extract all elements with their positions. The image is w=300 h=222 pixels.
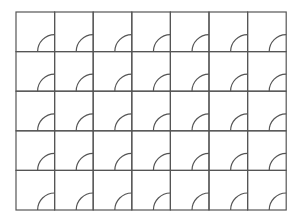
quarter-arc-icon <box>153 193 170 210</box>
quarter-arc-icon <box>192 74 209 91</box>
cell-border <box>170 170 209 210</box>
grid-cell <box>132 91 171 131</box>
door-swing-grid-diagram <box>0 0 300 222</box>
quarter-arc-icon <box>192 35 209 52</box>
grid-cell <box>132 52 171 92</box>
cell-border <box>16 52 55 92</box>
grid-cell <box>55 170 94 210</box>
quarter-arc-icon <box>269 35 286 52</box>
cell-border <box>248 52 287 92</box>
quarter-arc-icon <box>115 74 132 91</box>
grid-cell <box>170 131 209 171</box>
quarter-arc-icon <box>153 114 170 131</box>
cell-border <box>170 131 209 171</box>
quarter-arc-icon <box>38 74 55 91</box>
grid-cell <box>248 52 287 92</box>
quarter-arc-icon <box>269 153 286 170</box>
cell-border <box>132 91 171 131</box>
quarter-arc-icon <box>269 74 286 91</box>
grid-cell <box>93 12 132 52</box>
cell-border <box>93 12 132 52</box>
cell-border <box>248 131 287 171</box>
quarter-arc-icon <box>76 153 93 170</box>
grid-cell <box>16 170 55 210</box>
cell-border <box>209 12 248 52</box>
grid-cell <box>16 12 55 52</box>
cell-border <box>132 12 171 52</box>
grid-cell <box>16 131 55 171</box>
quarter-arc-icon <box>192 153 209 170</box>
grid-cell <box>132 12 171 52</box>
grid-cell <box>209 170 248 210</box>
quarter-arc-icon <box>231 153 248 170</box>
cell-border <box>248 170 287 210</box>
cell-border <box>16 91 55 131</box>
cell-border <box>55 91 94 131</box>
cell-border <box>209 131 248 171</box>
quarter-arc-icon <box>76 35 93 52</box>
cell-border <box>170 91 209 131</box>
cell-border <box>93 131 132 171</box>
cell-border <box>55 12 94 52</box>
grid-cell <box>170 170 209 210</box>
cell-border <box>55 170 94 210</box>
grid-cell <box>55 91 94 131</box>
cell-border <box>93 52 132 92</box>
quarter-arc-icon <box>153 153 170 170</box>
grid-cell <box>170 91 209 131</box>
grid-cell <box>170 52 209 92</box>
grid-cell <box>209 52 248 92</box>
cell-border <box>248 12 287 52</box>
grid-cell <box>248 12 287 52</box>
quarter-arc-icon <box>231 114 248 131</box>
quarter-arc-icon <box>231 35 248 52</box>
grid-cell <box>248 131 287 171</box>
cell-border <box>132 131 171 171</box>
quarter-arc-icon <box>38 153 55 170</box>
cell-border <box>16 12 55 52</box>
grid-cell <box>132 131 171 171</box>
grid-cell <box>55 52 94 92</box>
quarter-arc-icon <box>38 193 55 210</box>
cell-border <box>16 170 55 210</box>
quarter-arc-icon <box>153 74 170 91</box>
grid-cell <box>55 131 94 171</box>
cell-border <box>209 52 248 92</box>
cell-border <box>170 12 209 52</box>
grid-cell <box>55 12 94 52</box>
quarter-arc-icon <box>231 74 248 91</box>
quarter-arc-icon <box>269 193 286 210</box>
grid-cell <box>209 131 248 171</box>
quarter-arc-icon <box>231 193 248 210</box>
cell-border <box>93 91 132 131</box>
quarter-arc-icon <box>76 74 93 91</box>
cell-border <box>55 131 94 171</box>
grid-cell <box>93 170 132 210</box>
cell-border <box>93 170 132 210</box>
grid-cell <box>132 170 171 210</box>
cell-border <box>132 170 171 210</box>
grid-cell <box>248 91 287 131</box>
grid-cell <box>93 91 132 131</box>
quarter-arc-icon <box>115 35 132 52</box>
quarter-arc-icon <box>115 153 132 170</box>
grid-cell <box>248 170 287 210</box>
grid-cell <box>16 91 55 131</box>
quarter-arc-icon <box>192 193 209 210</box>
cell-border <box>248 91 287 131</box>
quarter-arc-icon <box>38 35 55 52</box>
cell-border <box>132 52 171 92</box>
quarter-arc-icon <box>76 114 93 131</box>
quarter-arc-icon <box>115 193 132 210</box>
cell-border <box>209 170 248 210</box>
cell-border <box>209 91 248 131</box>
quarter-arc-icon <box>269 114 286 131</box>
quarter-arc-icon <box>76 193 93 210</box>
cell-border <box>55 52 94 92</box>
grid-cell <box>93 52 132 92</box>
cell-border <box>16 131 55 171</box>
quarter-arc-icon <box>192 114 209 131</box>
quarter-arc-icon <box>38 114 55 131</box>
grid-cell <box>16 52 55 92</box>
grid-cell <box>209 12 248 52</box>
